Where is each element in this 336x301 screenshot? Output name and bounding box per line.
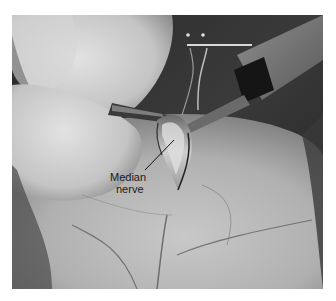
surgical-photo: Median nerve — [12, 15, 323, 289]
annotation-label-nerve: nerve — [116, 183, 142, 195]
photo-illustration — [12, 15, 323, 289]
annotation-label-median: Median — [110, 171, 146, 183]
